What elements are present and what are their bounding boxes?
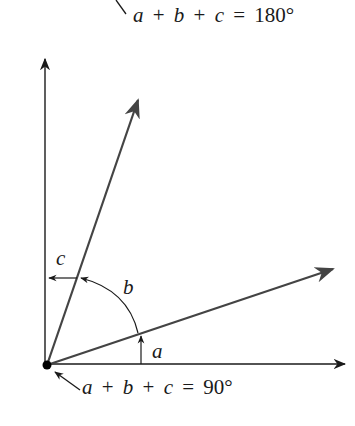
angle-b-label: b [123,275,134,299]
angle-c-label: c [56,246,66,270]
top-leader-line [116,0,126,14]
shallow-ray [47,269,333,365]
top-formula: a + b + c = 180° [133,3,294,27]
bottom-formula: a + b + c = 90° [82,375,233,399]
origin-point [43,361,52,370]
angle-a-label: a [152,339,163,363]
steep-ray [47,100,138,365]
bottom-leader-arrow [55,372,80,390]
angle-diagram: a + b + c = 180° c b a a + b + c = 90° [0,0,355,426]
